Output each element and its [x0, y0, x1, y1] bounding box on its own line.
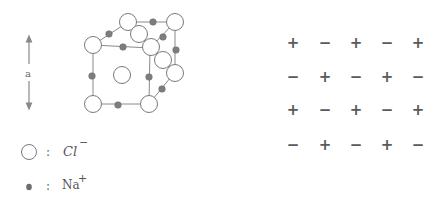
plus-sign: + — [315, 69, 335, 85]
sodium-ion — [106, 31, 113, 38]
plus-sign: + — [346, 35, 366, 51]
chloride-ion — [85, 37, 102, 54]
sodium-ion — [89, 73, 96, 80]
chloride-ion — [141, 96, 158, 113]
legend-sodium-symbol — [26, 184, 32, 191]
minus-sign: − — [315, 102, 335, 118]
minus-sign: − — [408, 137, 428, 153]
sodium-ion — [115, 102, 122, 109]
lattice-constant-label: a — [25, 68, 31, 79]
legend-sodium-charge: + — [78, 172, 87, 185]
chloride-ion — [155, 52, 172, 69]
sodium-ion — [160, 34, 167, 41]
legend-separator: : — [46, 179, 50, 193]
legend-sodium-label: Na — [62, 178, 80, 192]
plus-sign: + — [377, 137, 397, 153]
sodium-ion — [159, 86, 166, 93]
minus-sign: − — [377, 35, 397, 51]
legend-chloride-charge: − — [79, 136, 88, 149]
arrow-up-head — [27, 36, 32, 42]
nacl-lattice-diagram — [0, 0, 445, 200]
minus-sign: − — [377, 102, 397, 118]
chloride-ion — [85, 96, 102, 113]
chloride-ion — [131, 26, 148, 43]
plus-sign: + — [377, 69, 397, 85]
minus-sign: − — [283, 69, 303, 85]
figure: a : Cl − : Na + +−+−+−+−+−+−+−+−+−+− — [0, 0, 445, 200]
minus-sign: − — [346, 137, 366, 153]
minus-sign: − — [408, 69, 428, 85]
minus-sign: − — [346, 69, 366, 85]
plus-sign: + — [283, 102, 303, 118]
minus-sign: − — [283, 137, 303, 153]
plus-sign: + — [315, 137, 335, 153]
sodium-ion — [150, 19, 157, 26]
chloride-ion — [167, 65, 184, 82]
sodium-ion — [146, 74, 153, 81]
plus-sign: + — [408, 102, 428, 118]
plus-sign: + — [283, 35, 303, 51]
arrow-down-head — [27, 103, 32, 109]
chloride-ion — [143, 39, 160, 56]
minus-sign: − — [315, 35, 335, 51]
plus-sign: + — [346, 102, 366, 118]
legend-chloride-label: Cl — [63, 144, 77, 159]
sodium-ion — [120, 44, 127, 51]
sodium-ion — [173, 47, 180, 54]
legend-chloride-symbol — [22, 145, 37, 160]
legend-separator: : — [46, 145, 50, 159]
plus-sign: + — [408, 35, 428, 51]
chloride-ion — [114, 67, 131, 84]
chloride-ion — [167, 14, 184, 31]
chloride-ions — [85, 14, 184, 113]
